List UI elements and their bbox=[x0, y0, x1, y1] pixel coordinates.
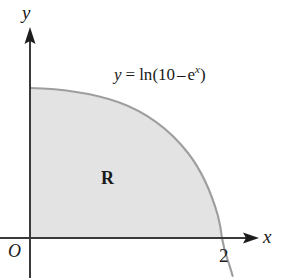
equation-close-paren: ) bbox=[200, 65, 206, 84]
equation-equals-sign: = bbox=[126, 65, 136, 84]
x-axis-label: x bbox=[263, 227, 271, 246]
equation-constant: 10 bbox=[158, 65, 175, 84]
figure-canvas bbox=[0, 0, 281, 278]
equation-exponential-base: e bbox=[188, 65, 196, 84]
origin-label: O bbox=[8, 242, 21, 260]
region-label-R: R bbox=[101, 169, 114, 187]
y-axis-label: y bbox=[22, 3, 30, 22]
x-intercept-tick-label: 2 bbox=[219, 246, 229, 265]
math-figure-shaded-region: y x O 2 R y=ln(10–ex) bbox=[0, 0, 281, 278]
shaded-region-R bbox=[30, 88, 222, 238]
curve-equation-label: y=ln(10–ex) bbox=[114, 66, 206, 83]
equation-lhs: y bbox=[114, 65, 122, 84]
equation-log-function: ln bbox=[139, 65, 152, 84]
equation-minus-sign: – bbox=[177, 65, 186, 84]
